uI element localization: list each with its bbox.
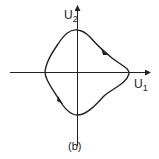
- u1-label: U: [134, 77, 143, 91]
- svg-text:U2: U2: [64, 8, 78, 24]
- figure-label: (b): [68, 140, 81, 152]
- u2-subscript: 2: [73, 14, 78, 24]
- flow-arrow-icon: [57, 96, 63, 104]
- u2-label: U: [64, 8, 73, 22]
- svg-text:U1: U1: [134, 77, 148, 93]
- phase-diagram: U2 U1 (b): [0, 0, 159, 159]
- u1-subscript: 1: [143, 83, 148, 93]
